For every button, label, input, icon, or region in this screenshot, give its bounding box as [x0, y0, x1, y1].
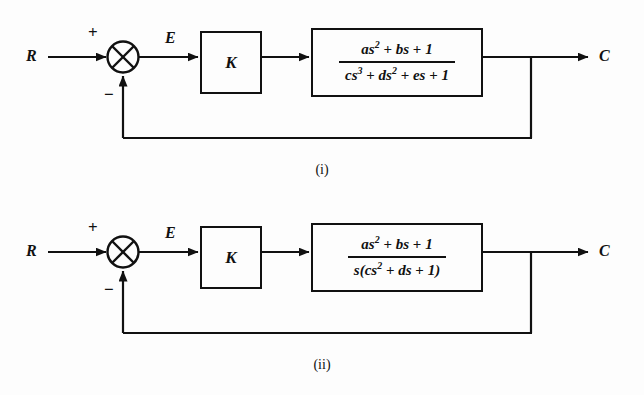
- minus-sign: −: [104, 86, 114, 103]
- gain-block-label: K: [225, 248, 236, 268]
- diagram-caption-ii: (ii): [292, 357, 352, 373]
- output-label-c: C: [599, 243, 610, 259]
- output-label-c: C: [599, 48, 610, 64]
- transfer-function-numerator: as2 + bs + 1: [339, 41, 455, 60]
- gain-block-label: K: [225, 53, 236, 73]
- transfer-function-block: as2 + bs + 1 cs3 + ds2 + es + 1: [311, 28, 483, 97]
- transfer-function-denominator: cs3 + ds2 + es + 1: [339, 65, 455, 84]
- fraction-bar: [339, 61, 455, 63]
- input-label-r: R: [26, 48, 37, 64]
- diagram-caption-i: (i): [292, 162, 352, 178]
- error-label-e: E: [165, 30, 176, 46]
- fraction-bar: [348, 256, 446, 258]
- transfer-function-fraction: as2 + bs + 1 s(cs2 + ds + 1): [348, 236, 446, 279]
- transfer-function-block: as2 + bs + 1 s(cs2 + ds + 1): [311, 223, 483, 292]
- block-diagram-i: R + − E K as2 + bs + 1 cs3 + ds2 + es + …: [0, 0, 644, 195]
- transfer-function-numerator: as2 + bs + 1: [348, 236, 446, 255]
- plus-sign: +: [88, 219, 98, 236]
- figure-page: R + − E K as2 + bs + 1 cs3 + ds2 + es + …: [0, 0, 644, 395]
- gain-block: K: [200, 31, 262, 94]
- minus-sign: −: [104, 281, 114, 298]
- plus-sign: +: [88, 24, 98, 41]
- transfer-function-fraction: as2 + bs + 1 cs3 + ds2 + es + 1: [339, 41, 455, 84]
- transfer-function-denominator: s(cs2 + ds + 1): [348, 260, 446, 279]
- block-diagram-ii: R + − E K as2 + bs + 1 s(cs2 + ds + 1) C…: [0, 195, 644, 390]
- gain-block: K: [200, 226, 262, 289]
- error-label-e: E: [165, 225, 176, 241]
- input-label-r: R: [26, 243, 37, 259]
